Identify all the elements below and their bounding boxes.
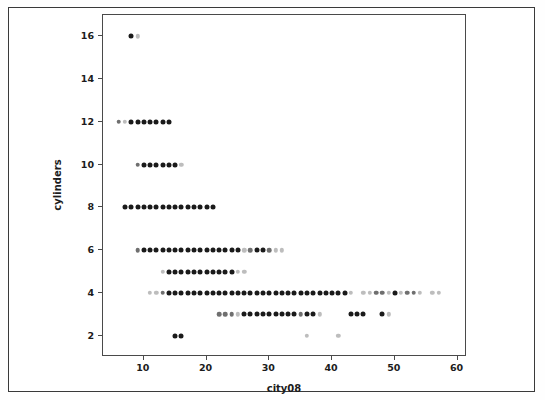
scatter-point — [166, 248, 171, 253]
scatter-point — [386, 312, 390, 316]
y-tick-mark — [98, 78, 102, 79]
scatter-point — [273, 312, 278, 317]
scatter-point — [236, 312, 240, 316]
scatter-point — [392, 290, 397, 295]
x-tick-mark — [206, 356, 207, 360]
scatter-point — [173, 205, 178, 210]
y-tick-mark — [98, 164, 102, 165]
scatter-point — [217, 312, 222, 317]
scatter-point — [242, 269, 246, 273]
scatter-point — [405, 291, 410, 296]
y-tick-label: 4 — [70, 286, 94, 297]
scatter-point — [317, 312, 321, 316]
x-tick-label: 20 — [199, 362, 212, 373]
scatter-point — [141, 119, 146, 124]
scatter-point — [148, 205, 153, 210]
scatter-point — [116, 120, 121, 125]
scatter-point — [185, 290, 190, 295]
scatter-point — [223, 312, 228, 317]
scatter-point — [261, 312, 266, 317]
scatter-point — [323, 290, 328, 295]
scatter-point — [148, 119, 153, 124]
scatter-point — [411, 291, 416, 296]
y-tick-label: 8 — [70, 201, 94, 212]
scatter-point — [261, 248, 266, 253]
scatter-point — [418, 291, 422, 295]
scatter-point — [217, 290, 222, 295]
scatter-point — [223, 290, 228, 295]
plot-axes-frame — [102, 14, 466, 356]
scatter-point — [185, 205, 190, 210]
scatter-point — [254, 312, 259, 317]
scatter-point — [229, 269, 234, 274]
scatter-point — [135, 162, 140, 167]
y-tick-mark — [98, 249, 102, 250]
y-tick-label: 12 — [70, 115, 94, 126]
scatter-point — [273, 248, 277, 252]
x-tick-mark — [268, 356, 269, 360]
scatter-point — [267, 290, 272, 295]
scatter-point — [223, 269, 228, 274]
scatter-point — [235, 248, 240, 253]
scatter-point — [173, 269, 178, 274]
scatter-point — [141, 205, 146, 210]
scatter-point — [160, 291, 165, 296]
x-tick-label: 50 — [387, 362, 400, 373]
y-tick-label: 2 — [70, 329, 94, 340]
scatter-point — [135, 119, 140, 124]
scatter-point — [192, 290, 197, 295]
scatter-point — [280, 248, 284, 252]
x-axis-label: city08 — [102, 383, 466, 394]
scatter-point — [399, 291, 403, 295]
x-tick-mark — [457, 356, 458, 360]
scatter-point — [348, 312, 353, 317]
scatter-point — [129, 119, 134, 124]
y-tick-mark — [98, 292, 102, 293]
scatter-point — [192, 205, 197, 210]
scatter-point — [135, 205, 140, 210]
scatter-point — [273, 290, 278, 295]
scatter-point — [166, 269, 171, 274]
scatter-point — [166, 205, 171, 210]
y-axis-label: cylinders — [52, 159, 63, 210]
y-tick-mark — [98, 335, 102, 336]
scatter-point — [261, 290, 266, 295]
scatter-point — [204, 248, 209, 253]
plot-surface — [103, 15, 465, 355]
scatter-point — [198, 269, 203, 274]
scatter-point — [160, 269, 164, 273]
scatter-point — [154, 205, 159, 210]
scatter-point — [198, 205, 203, 210]
scatter-point — [179, 205, 184, 210]
y-tick-label: 6 — [70, 244, 94, 255]
scatter-point — [330, 290, 335, 295]
scatter-point — [229, 290, 234, 295]
x-tick-label: 40 — [324, 362, 337, 373]
scatter-point — [292, 290, 297, 295]
scatter-point — [217, 248, 222, 253]
scatter-point — [336, 290, 341, 295]
scatter-point — [336, 333, 340, 337]
scatter-point — [304, 312, 309, 317]
scatter-point — [154, 291, 158, 295]
scatter-point — [148, 291, 152, 295]
scatter-point — [361, 312, 366, 317]
y-tick-label: 10 — [70, 158, 94, 169]
scatter-point — [242, 312, 247, 317]
scatter-point — [192, 269, 197, 274]
scatter-point — [160, 248, 165, 253]
scatter-point — [160, 205, 165, 210]
scatter-point — [192, 248, 197, 253]
scatter-point — [248, 312, 253, 317]
scatter-point — [248, 248, 253, 253]
scatter-point — [179, 333, 184, 338]
scatter-point — [305, 333, 309, 337]
scatter-point — [166, 290, 171, 295]
scatter-point — [311, 290, 316, 295]
y-tick-label: 14 — [70, 73, 94, 84]
scatter-point — [135, 34, 139, 38]
page-border: 102030405060 246810121416 city08 cylinde… — [8, 7, 535, 392]
scatter-point — [342, 290, 347, 295]
scatter-point — [129, 205, 134, 210]
scatter-point — [179, 248, 184, 253]
